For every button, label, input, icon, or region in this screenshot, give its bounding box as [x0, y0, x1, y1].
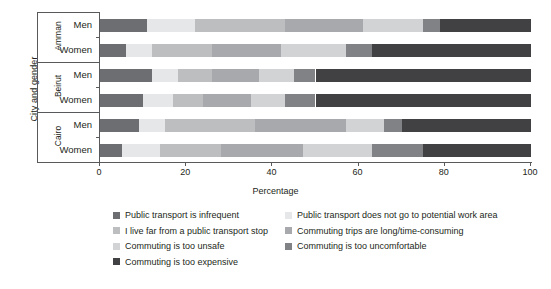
- legend-swatch-icon: [285, 243, 292, 250]
- y-tick-amman: [96, 37, 99, 38]
- bar-segment: [221, 144, 303, 157]
- y-tick-beirut: [96, 87, 99, 88]
- x-tick-label: 0: [79, 167, 119, 177]
- legend-swatch-icon: [113, 258, 120, 265]
- x-tick-label: 100: [510, 167, 550, 177]
- bar-beirut-men: [100, 69, 531, 82]
- legend-swatch-icon: [113, 212, 120, 219]
- row-label-cairo-women: Women: [30, 144, 92, 156]
- bar-segment: [139, 119, 165, 132]
- bar-segment: [346, 44, 372, 57]
- x-tick-label: 40: [251, 167, 291, 177]
- legend-swatch-icon: [285, 227, 292, 234]
- y-axis-outer-line: [37, 12, 38, 162]
- x-axis-title: Percentage: [0, 186, 551, 196]
- bar-segment: [152, 69, 178, 82]
- bar-segment: [372, 44, 531, 57]
- legend-item[interactable]: I live far from a public transport stop: [113, 225, 293, 237]
- bar-segment: [346, 119, 385, 132]
- legend-label: Commuting is too unsafe: [125, 240, 225, 252]
- bar-segment: [178, 69, 212, 82]
- x-tick: [530, 163, 531, 166]
- legend-label: Commuting is too expensive: [125, 256, 238, 268]
- x-tick: [271, 163, 272, 166]
- bar-segment: [363, 19, 423, 32]
- x-axis-ticks: 020406080100: [0, 163, 551, 183]
- x-tick-label: 60: [338, 167, 378, 177]
- group-separator-top: [37, 12, 100, 13]
- bar-segment: [100, 19, 147, 32]
- bar-segment: [100, 94, 143, 107]
- bar-segment: [384, 119, 401, 132]
- bar-segment: [100, 144, 122, 157]
- row-label-beirut-men: Men: [30, 69, 92, 81]
- legend-column-1: Public transport is infrequentI live far…: [113, 209, 293, 271]
- bar-segment: [316, 94, 532, 107]
- bar-segment: [423, 19, 440, 32]
- bar-segment: [402, 119, 531, 132]
- bar-segment: [143, 94, 173, 107]
- bar-segment: [316, 69, 532, 82]
- x-tick: [358, 163, 359, 166]
- bar-segment: [126, 44, 152, 57]
- legend-label: Public transport does not go to potentia…: [297, 209, 498, 221]
- row-label-amman-women: Women: [30, 44, 92, 56]
- bar-segment: [122, 144, 161, 157]
- bar-segment: [173, 94, 203, 107]
- legend-column-2: Public transport does not go to potentia…: [285, 209, 545, 256]
- bar-amman-women: [100, 44, 531, 57]
- row-label-cairo-men: Men: [30, 119, 92, 131]
- bar-segment: [203, 94, 250, 107]
- row-label-amman-men: Men: [30, 19, 92, 31]
- bar-segment: [440, 19, 531, 32]
- bar-segment: [100, 44, 126, 57]
- bar-segment: [152, 44, 212, 57]
- bar-segment: [160, 144, 220, 157]
- legend-label: Public transport is infrequent: [125, 209, 239, 221]
- legend-label: I live far from a public transport stop: [125, 225, 268, 237]
- bar-amman-men: [100, 19, 531, 32]
- bar-segment: [285, 19, 363, 32]
- bar-segment: [303, 144, 372, 157]
- bar-segment: [259, 69, 293, 82]
- x-tick: [185, 163, 186, 166]
- row-label-beirut-women: Women: [30, 94, 92, 106]
- bar-segment: [147, 19, 194, 32]
- legend-item[interactable]: Commuting is too expensive: [113, 256, 293, 268]
- bar-segment: [372, 144, 424, 157]
- legend-item[interactable]: Public transport is infrequent: [113, 209, 293, 221]
- legend-label: Commuting trips are long/time-consuming: [297, 225, 464, 237]
- bar-beirut-women: [100, 94, 531, 107]
- bar-segment: [165, 119, 256, 132]
- legend-swatch-icon: [113, 243, 120, 250]
- x-tick-label: 20: [165, 167, 205, 177]
- legend-item[interactable]: Commuting is too uncomfortable: [285, 240, 545, 252]
- legend-swatch-icon: [113, 227, 120, 234]
- bar-segment: [100, 119, 139, 132]
- bar-segment: [281, 44, 346, 57]
- legend-item[interactable]: Commuting trips are long/time-consuming: [285, 225, 545, 237]
- y-tick-cairo: [96, 137, 99, 138]
- bar-segment: [285, 94, 315, 107]
- bar-segment: [255, 119, 346, 132]
- legend-item[interactable]: Commuting is too unsafe: [113, 240, 293, 252]
- bar-segment: [212, 44, 281, 57]
- bar-segment: [294, 69, 316, 82]
- group-separator-beirut-cairo: [37, 112, 100, 113]
- bar-segment: [195, 19, 286, 32]
- bar-cairo-men: [100, 119, 531, 132]
- legend-label: Commuting is too uncomfortable: [297, 240, 427, 252]
- legend-item[interactable]: Public transport does not go to potentia…: [285, 209, 545, 221]
- bar-segment: [251, 94, 285, 107]
- bar-segment: [423, 144, 531, 157]
- x-tick: [444, 163, 445, 166]
- stacked-bar-chart: City and gender Amman Beirut Cairo Men W…: [0, 0, 551, 289]
- bar-segment: [212, 69, 259, 82]
- x-tick: [99, 163, 100, 166]
- group-separator-amman-beirut: [37, 62, 100, 63]
- bar-segment: [100, 69, 152, 82]
- x-tick-label: 80: [424, 167, 464, 177]
- legend-swatch-icon: [285, 212, 292, 219]
- plot-area: [100, 12, 531, 162]
- bar-cairo-women: [100, 144, 531, 157]
